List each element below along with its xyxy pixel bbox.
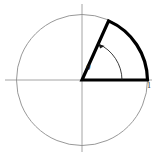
- angle-theta-label: θ: [86, 63, 90, 72]
- unit-circle-canvas: [0, 0, 156, 157]
- radius-value-label: 1: [147, 82, 151, 90]
- angle-arc: [98, 44, 122, 80]
- sector-outline: [82, 21, 148, 80]
- unit-circle-figure: θ 1: [0, 0, 156, 157]
- arrow-head-icon: [98, 44, 104, 49]
